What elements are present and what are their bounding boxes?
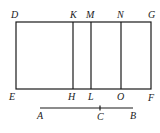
label-F: F xyxy=(147,92,155,103)
label-D: D xyxy=(10,9,19,20)
label-A: A xyxy=(36,110,44,121)
label-B: B xyxy=(130,110,136,121)
label-H: H xyxy=(67,91,76,102)
label-C: C xyxy=(97,111,104,122)
label-K: K xyxy=(69,9,78,20)
label-O: O xyxy=(117,91,124,102)
label-L: L xyxy=(87,91,94,102)
rectangle-DGFE xyxy=(16,22,151,89)
label-G: G xyxy=(148,9,155,20)
label-N: N xyxy=(116,9,125,20)
label-E: E xyxy=(8,91,15,102)
label-M: M xyxy=(85,9,95,20)
geometry-diagram: D K M N G E H L O F A C B xyxy=(0,0,160,133)
